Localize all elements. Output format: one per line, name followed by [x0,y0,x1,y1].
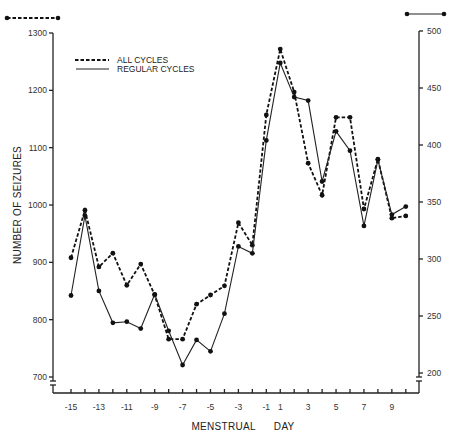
data-point-regular-cycles-day--6 [194,338,199,343]
y-axis-title: NUMBER OF SEIZURES [12,146,23,264]
series-layer [69,47,409,368]
legend-label-regular-cycles: REGULAR CYCLES [117,64,195,74]
data-point-regular-cycles-day--14 [83,213,88,218]
data-point-regular-cycles-day--8 [166,328,171,333]
data-point-regular-cycles-day-9 [389,212,394,217]
x-axis-tick-label: -9 [151,402,159,412]
x-axis-tick-label: 1 [278,402,283,412]
left-axis-series-marker [5,16,61,21]
series-line-regular-cycles [71,63,406,365]
data-point-regular-cycles-day-1 [278,61,283,66]
data-point-all-cycles-day--1 [264,113,269,118]
left-axis-tick-label: 1200 [28,85,47,95]
data-point-all-cycles-day-3 [306,161,311,166]
data-point-regular-cycles-day-3 [306,98,311,103]
data-point-all-cycles-day-7 [362,207,367,212]
data-point-all-cycles-day-5 [334,115,339,120]
data-point-regular-cycles-day-10 [403,204,408,209]
data-point-all-cycles-day--12 [110,251,115,256]
data-point-all-cycles-day--11 [124,283,129,288]
x-axis-tick-label: 7 [362,402,367,412]
axes: 7008009001000110012001300200250300350400… [28,26,441,412]
data-point-regular-cycles-day--7 [180,363,185,368]
data-point-regular-cycles-day--13 [97,289,102,294]
data-point-all-cycles-day--7 [180,337,185,342]
right-axis-series-marker [405,12,447,17]
data-point-all-cycles-day--15 [69,255,74,260]
x-axis-tick-label: 3 [306,402,311,412]
right-axis-tick-label: 300 [427,254,441,264]
x-axis-title: MENSTRUAL DAY [191,421,294,432]
left-axis-tick-label: 800 [33,315,47,325]
data-point-regular-cycles-day--4 [222,311,227,316]
data-point-regular-cycles-day-8 [376,157,381,162]
series-line-all-cycles [71,49,406,339]
data-point-regular-cycles-day--3 [236,244,241,249]
data-point-regular-cycles-day--15 [69,293,74,298]
data-point-all-cycles-day--5 [208,293,213,298]
right-axis-tick-label: 400 [427,140,441,150]
data-point-all-cycles-day--6 [194,302,199,307]
data-point-all-cycles-day-6 [348,115,353,120]
x-axis-tick-label: 9 [389,402,394,412]
data-point-all-cycles-day-4 [320,193,325,198]
left-axis-tick-label: 1000 [28,200,47,210]
x-axis-tick-label: -13 [93,402,106,412]
data-point-regular-cycles-day-6 [348,148,353,153]
data-point-regular-cycles-day--2 [250,251,255,256]
data-point-all-cycles-day-10 [403,213,408,218]
data-point-regular-cycles-day--9 [152,292,157,297]
data-point-regular-cycles-day--10 [138,326,143,331]
data-point-regular-cycles-day--1 [264,138,269,143]
x-axis-tick-label: -3 [235,402,243,412]
right-axis-tick-label: 450 [427,83,441,93]
data-point-regular-cycles-day--11 [124,319,129,324]
data-point-regular-cycles-day-5 [334,129,339,134]
x-axis-tick-label: -11 [121,402,133,412]
data-point-regular-cycles-day-7 [362,224,367,229]
data-point-all-cycles-day--8 [166,337,171,342]
data-point-all-cycles-day--4 [222,283,227,288]
right-axis-tick-label: 350 [427,197,441,207]
data-point-all-cycles-day--13 [97,265,102,270]
x-axis-tick-label: -1 [263,402,271,412]
left-axis-tick-label: 900 [33,257,47,267]
data-point-all-cycles-day--3 [236,220,241,225]
series-all-cycles [69,47,409,342]
data-point-all-cycles-day--10 [138,262,143,267]
data-point-regular-cycles-day-4 [320,179,325,184]
left-axis-tick-label: 700 [33,372,47,382]
x-axis-tick-label: -15 [65,402,78,412]
series-regular-cycles [69,61,409,368]
left-axis-tick-label: 1100 [29,143,48,153]
right-axis-tick-label: 250 [427,311,441,321]
x-axis-tick-label: -5 [207,402,215,412]
left-axis-tick-label: 1300 [28,28,47,38]
x-axis-tick-label: 5 [334,402,339,412]
seizure-chart: 7008009001000110012001300200250300350400… [0,0,455,444]
data-point-regular-cycles-day--5 [208,349,213,354]
right-axis-tick-label: 500 [427,26,441,36]
data-point-regular-cycles-day-2 [292,95,297,100]
legend: ALL CYCLES REGULAR CYCLES [75,55,195,74]
data-point-all-cycles-day--14 [83,208,88,213]
data-point-all-cycles-day-1 [278,47,283,52]
x-axis-tick-label: -7 [179,402,187,412]
right-axis-tick-label: 200 [427,368,441,378]
data-point-regular-cycles-day--12 [110,320,115,325]
